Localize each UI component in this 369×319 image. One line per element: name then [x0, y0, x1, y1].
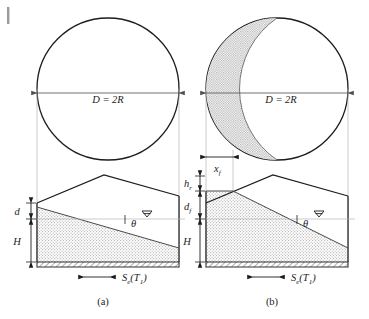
- theta-label-b: θ: [303, 218, 308, 229]
- panel-caption-b: (b): [266, 296, 279, 308]
- bedrock-strip-b: [206, 262, 348, 267]
- seismic-load-close-a: ): [142, 272, 147, 284]
- dimension-hr-sub-b: r: [189, 184, 192, 192]
- corner-scan-mark: [7, 7, 9, 24]
- bedrock-strip-a: [37, 262, 179, 267]
- dimension-d-label-a: d: [14, 206, 20, 217]
- dimension-H-label-b: H: [182, 236, 192, 247]
- seismic-load-close-b: ): [311, 272, 316, 284]
- panel-caption-a: (a): [97, 296, 109, 308]
- figure-svg: D = 2R θ: [0, 0, 369, 319]
- dimension-H-label-a: H: [12, 236, 22, 247]
- figure-root: D = 2R θ: [0, 0, 369, 319]
- diameter-label-b: D = 2R: [264, 94, 297, 105]
- diameter-label-a: D = 2R: [91, 94, 124, 105]
- theta-label-a: θ: [131, 218, 136, 229]
